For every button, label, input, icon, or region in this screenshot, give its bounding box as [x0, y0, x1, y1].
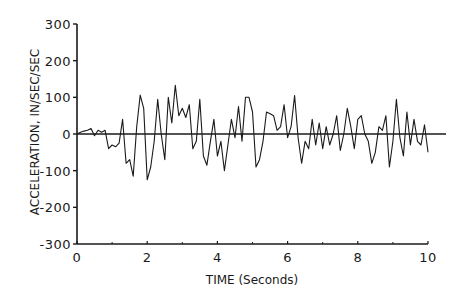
- x-axis: 0246810: [73, 241, 437, 265]
- y-tick-label: -100: [39, 164, 71, 179]
- x-tick-label: 4: [213, 250, 222, 265]
- acceleration-series-line: [77, 85, 428, 180]
- chart-canvas: 3002001000-100-200-300 0246810 TIME (Sec…: [0, 0, 457, 305]
- y-tick-label: 0: [62, 127, 71, 142]
- y-tick-label: -300: [39, 237, 71, 252]
- y-tick-label: 100: [45, 90, 71, 105]
- y-axis-title: ACCELERATION, IN/SEC/SEC: [28, 49, 42, 215]
- y-tick-label: 300: [45, 17, 71, 32]
- x-axis-title: TIME (Seconds): [205, 273, 298, 287]
- x-tick-label: 10: [419, 250, 437, 265]
- x-tick-label: 8: [353, 250, 362, 265]
- x-tick-label: 0: [73, 250, 82, 265]
- x-tick-label: 2: [143, 250, 152, 265]
- x-tick-label: 6: [283, 250, 292, 265]
- y-tick-label: 200: [45, 54, 71, 69]
- y-axis: 3002001000-100-200-300: [39, 17, 77, 252]
- y-tick-label: -200: [39, 200, 71, 215]
- y-axis-ticks: 3002001000-100-200-300: [39, 17, 77, 252]
